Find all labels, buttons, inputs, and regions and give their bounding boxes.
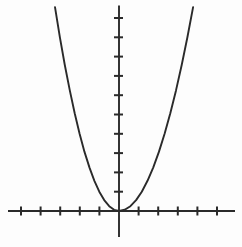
figure-parabola-plot <box>0 0 242 247</box>
plot-svg <box>0 0 242 247</box>
